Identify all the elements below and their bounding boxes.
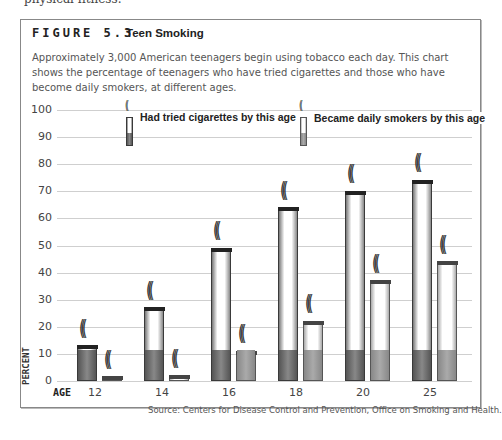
smoke-icon: (((	[213, 219, 217, 240]
bar-daily	[169, 376, 189, 381]
cigarette-ash-cap	[144, 307, 165, 311]
cigarette-ash-cap	[412, 180, 433, 184]
smoke-icon: (((	[171, 347, 175, 368]
filter-segment	[279, 350, 297, 380]
bar-daily	[303, 321, 323, 381]
cigarette-ash-cap	[345, 191, 366, 195]
gridline	[57, 191, 472, 192]
smoke-icon: (((	[146, 279, 150, 300]
y-tick-label: 70	[26, 184, 52, 197]
x-axis-label: AGE	[53, 387, 71, 398]
y-axis-label: PERCENT	[21, 347, 31, 385]
bar-daily	[236, 351, 256, 381]
cigarette-ash-cap	[169, 375, 190, 379]
cigarette-ash-cap	[102, 376, 123, 380]
y-tick-label: 60	[26, 211, 52, 224]
bar-daily	[370, 281, 390, 381]
filter-segment	[304, 350, 322, 380]
filter-segment	[413, 350, 431, 380]
cigarette-ash-cap	[278, 207, 299, 211]
gridline	[57, 246, 472, 247]
filter-segment	[212, 350, 230, 380]
bar-tried	[412, 180, 432, 381]
smoke-icon: (((	[414, 151, 418, 172]
bar-daily	[102, 377, 122, 381]
legend-swatch-daily	[300, 117, 307, 146]
x-tick-label: 25	[415, 386, 445, 399]
filter-segment	[438, 350, 456, 380]
y-tick-label: 30	[26, 293, 52, 306]
cigarette-ash-cap	[437, 261, 458, 265]
figure-title: Teen Smoking	[126, 27, 204, 39]
gridline	[57, 164, 472, 165]
bar-daily	[437, 262, 457, 381]
bar-tried	[211, 248, 231, 381]
preceding-body-text: physical fitness.	[24, 0, 122, 6]
legend-swatch-tried	[126, 117, 133, 146]
filter-segment	[346, 350, 364, 380]
x-tick-label: 16	[214, 386, 244, 399]
smoke-icon: (((	[347, 162, 351, 183]
figure-description: Approximately 3,000 American teenagers b…	[32, 50, 472, 95]
bar-tried	[77, 346, 97, 381]
smoke-icon: (((	[305, 292, 309, 313]
x-tick-label: 20	[348, 386, 378, 399]
smoke-icon: (((	[238, 322, 242, 343]
y-tick-label: 20	[26, 320, 52, 333]
legend-daily-label: Became daily smokers by this age	[311, 112, 488, 124]
filter-segment	[371, 350, 389, 380]
source-note: Source: Centers for Disease Control and …	[148, 405, 502, 415]
smoke-icon: (((	[104, 348, 108, 369]
bar-tried	[278, 208, 298, 381]
x-tick-label: 14	[147, 386, 177, 399]
legend-tried-label: Had tried cigarettes by this age	[137, 111, 299, 123]
smoke-icon: (((	[372, 252, 376, 273]
gridline	[57, 300, 472, 301]
bar-tried	[345, 191, 365, 381]
cigarette-ash-cap	[211, 248, 232, 252]
smoke-icon: (((	[439, 233, 443, 254]
y-tick-label: 80	[26, 157, 52, 170]
y-tick-label: 50	[26, 239, 52, 252]
smoke-icon: (((	[79, 317, 83, 338]
y-tick-label: 40	[26, 266, 52, 279]
gridline	[57, 137, 472, 138]
x-tick-label: 18	[281, 386, 311, 399]
filter-segment	[237, 350, 255, 380]
gridline	[57, 273, 472, 274]
cigarette-ash-cap	[77, 345, 98, 349]
bar-tried	[144, 308, 164, 381]
smoke-icon: (((	[280, 179, 284, 200]
gridline	[57, 327, 472, 328]
x-tick-label: 12	[80, 386, 110, 399]
y-tick-label: 100	[26, 103, 52, 116]
filter-segment	[145, 350, 163, 380]
figure-label: FIGURE 5.3	[32, 26, 134, 40]
gridline	[57, 218, 472, 219]
y-tick-label: 90	[26, 130, 52, 143]
cigarette-ash-cap	[370, 280, 391, 284]
filter-segment	[78, 350, 96, 380]
cigarette-ash-cap	[303, 321, 324, 325]
gridline	[57, 381, 472, 382]
gridline	[57, 354, 472, 355]
